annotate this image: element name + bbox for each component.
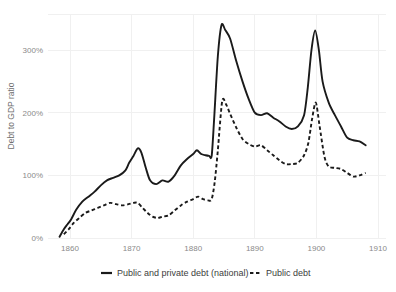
x-axis-tick-label: 1860: [61, 244, 79, 253]
x-axis-tick-label: 1890: [246, 244, 264, 253]
y-axis-title: Debt to GDP ratio: [6, 82, 16, 149]
y-axis-tick-label: 100%: [23, 171, 43, 180]
legend-label: Public debt: [266, 268, 311, 278]
y-axis-tick-label: 300%: [23, 46, 43, 55]
x-axis-tick-label: 1910: [369, 244, 387, 253]
chart-page: 0%100%200%300% 186018701880189019001910 …: [0, 0, 396, 292]
x-axis-tick-label: 1880: [184, 244, 202, 253]
x-axis-tick-label: 1870: [123, 244, 141, 253]
y-axis-tick-label: 200%: [23, 109, 43, 118]
y-axis-title-text: Debt to GDP ratio: [6, 82, 16, 149]
y-axis-tick-label: 0%: [31, 234, 43, 243]
x-axis-tick-label: 1900: [308, 244, 326, 253]
debt-to-gdp-line-chart: 0%100%200%300% 186018701880189019001910 …: [0, 0, 396, 292]
chart-legend: Public and private debt (national)Public…: [101, 268, 311, 278]
legend-label: Public and private debt (national): [117, 268, 249, 278]
